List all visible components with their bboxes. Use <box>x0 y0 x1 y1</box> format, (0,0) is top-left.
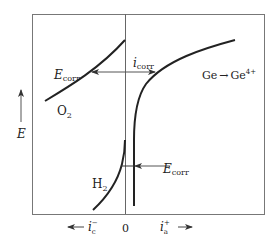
anodic-current-label: ia+ <box>160 219 170 236</box>
hydrogen-label: H2 <box>92 177 108 193</box>
diagram-canvas: E O2 Ecorr icorr Ge→Ge4+ H2 Ecorr ic− 0 … <box>0 0 278 240</box>
evans-diagram: E O2 Ecorr icorr Ge→Ge4+ H2 Ecorr ic− 0 … <box>0 0 278 240</box>
cathodic-current-label: ic− <box>88 219 98 236</box>
icorr-label: icorr <box>133 56 154 71</box>
ecorr-lower-label: Ecorr <box>162 162 189 177</box>
germanium-reaction-label: Ge→Ge4+ <box>202 68 256 82</box>
ecorr-upper-label: Ecorr <box>53 68 80 83</box>
y-axis-label: E <box>16 127 26 141</box>
oxygen-label: O2 <box>57 104 72 120</box>
zero-label: 0 <box>122 222 129 235</box>
hydrogen-curve <box>93 140 125 210</box>
